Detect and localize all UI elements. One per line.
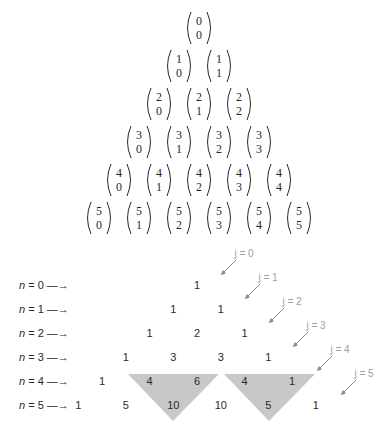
shaded-triangle-1: [128, 374, 219, 421]
row-label-n4: n = 4 —→: [19, 375, 69, 387]
binomial-k: 4: [245, 219, 273, 231]
row-label-n5: n = 5 —→: [19, 399, 69, 411]
pascal-value: 4: [241, 375, 247, 387]
binomial-n: 5: [245, 205, 273, 217]
diagonal-label-j4: j = 4: [330, 344, 349, 355]
binomial-coefficient: 54: [245, 200, 273, 236]
pascal-value: 1: [146, 327, 152, 339]
binomial-n: 4: [225, 167, 253, 179]
binomial-n: 5: [165, 205, 193, 217]
binomial-coefficient: 10: [165, 48, 193, 84]
binomial-k: 3: [225, 181, 253, 193]
binomial-coefficient: 11: [205, 48, 233, 84]
binomial-k: 2: [205, 143, 233, 155]
binomial-k: 0: [185, 29, 213, 41]
pascal-value: 1: [170, 303, 176, 315]
pascal-value: 10: [167, 399, 179, 411]
binomial-n: 0: [185, 15, 213, 27]
row-label-text: = 5 —→: [25, 399, 69, 411]
row-label-text: = 4 —→: [25, 375, 69, 387]
binomial-n: 2: [185, 91, 213, 103]
binomial-coefficient: 55: [285, 200, 313, 236]
diagonal-label-j3: j = 3: [306, 320, 325, 331]
pascal-value: 1: [241, 327, 247, 339]
pascal-value: 1: [99, 375, 105, 387]
binomial-n: 5: [125, 205, 153, 217]
diagonal-label-j0: j = 0: [234, 248, 253, 259]
binomial-k: 0: [105, 181, 133, 193]
pascal-value: 1: [218, 303, 224, 315]
pascal-value: 1: [289, 375, 295, 387]
binomial-k: 1: [185, 105, 213, 117]
diagonal-label-j2: j = 2: [282, 296, 301, 307]
binomial-k: 5: [285, 219, 313, 231]
binomial-coefficient: 33: [245, 124, 273, 160]
pascal-value: 6: [194, 375, 200, 387]
binomial-coefficient: 52: [165, 200, 193, 236]
binomial-k: 0: [145, 105, 173, 117]
binomial-n: 2: [225, 91, 253, 103]
binomial-k: 2: [185, 181, 213, 193]
pascal-triangle-figure: 0010112021223031323340414243445051525354…: [0, 0, 376, 429]
binomial-coefficient: 53: [205, 200, 233, 236]
binomial-coefficient: 20: [145, 86, 173, 122]
binomial-coefficient: 22: [225, 86, 253, 122]
binomial-coefficient: 51: [125, 200, 153, 236]
binomial-coefficient: 00: [185, 10, 213, 46]
binomial-n: 1: [165, 53, 193, 65]
binomial-coefficient: 31: [165, 124, 193, 160]
pascal-value: 2: [194, 327, 200, 339]
binomial-coefficient: 50: [85, 200, 113, 236]
pascal-value: 3: [218, 351, 224, 363]
diagonal-label-j5: j = 5: [354, 368, 373, 379]
binomial-n: 3: [245, 129, 273, 141]
binomial-k: 4: [265, 181, 293, 193]
binomial-n: 4: [265, 167, 293, 179]
binomial-n: 1: [205, 53, 233, 65]
row-label-n2: n = 2 —→: [19, 327, 69, 339]
binomial-n: 4: [105, 167, 133, 179]
binomial-k: 0: [165, 67, 193, 79]
pascal-value: 1: [194, 279, 200, 291]
binomial-k: 2: [165, 219, 193, 231]
shaded-triangle-2: [224, 374, 315, 421]
binomial-k: 3: [245, 143, 273, 155]
binomial-n: 4: [185, 167, 213, 179]
pascal-value: 5: [265, 399, 271, 411]
binomial-n: 5: [205, 205, 233, 217]
binomial-coefficient: 42: [185, 162, 213, 198]
row-label-text: = 3 —→: [25, 351, 69, 363]
pascal-value: 10: [215, 399, 227, 411]
row-label-text: = 0 —→: [25, 279, 69, 291]
pascal-value: 4: [146, 375, 152, 387]
binomial-k: 1: [205, 67, 233, 79]
binomial-coefficient: 43: [225, 162, 253, 198]
binomial-n: 3: [165, 129, 193, 141]
row-label-n0: n = 0 —→: [19, 279, 69, 291]
binomial-coefficient: 30: [125, 124, 153, 160]
binomial-n: 5: [285, 205, 313, 217]
pascal-value: 1: [123, 351, 129, 363]
row-label-n1: n = 1 —→: [19, 303, 69, 315]
binomial-k: 3: [205, 219, 233, 231]
binomial-n: 5: [85, 205, 113, 217]
pascal-value: 5: [123, 399, 129, 411]
binomial-k: 1: [125, 219, 153, 231]
row-label-text: = 1 —→: [25, 303, 69, 315]
row-label-n3: n = 3 —→: [19, 351, 69, 363]
binomial-n: 3: [125, 129, 153, 141]
pascal-value: 1: [265, 351, 271, 363]
binomial-coefficient: 44: [265, 162, 293, 198]
binomial-k: 1: [165, 143, 193, 155]
binomial-coefficient: 32: [205, 124, 233, 160]
pascal-value: 1: [75, 399, 81, 411]
binomial-n: 4: [145, 167, 173, 179]
binomial-k: 0: [125, 143, 153, 155]
binomial-k: 2: [225, 105, 253, 117]
binomial-coefficient: 41: [145, 162, 173, 198]
diagonal-label-j1: j = 1: [258, 272, 277, 283]
binomial-coefficient: 40: [105, 162, 133, 198]
binomial-n: 2: [145, 91, 173, 103]
binomial-n: 3: [205, 129, 233, 141]
row-label-text: = 2 —→: [25, 327, 69, 339]
